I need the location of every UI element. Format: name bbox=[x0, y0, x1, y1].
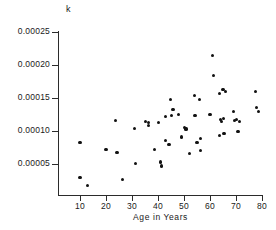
data-point bbox=[232, 110, 235, 113]
data-point bbox=[218, 134, 221, 137]
data-point bbox=[193, 94, 196, 97]
data-point bbox=[86, 184, 89, 187]
y-axis-tick-label: 0.00010 bbox=[18, 125, 50, 135]
data-point bbox=[199, 137, 202, 140]
y-axis-title: k bbox=[66, 4, 71, 14]
x-axis-tick-label: 60 bbox=[198, 201, 222, 211]
data-point bbox=[180, 135, 183, 138]
y-axis-tick-label: 0.00005 bbox=[18, 158, 50, 168]
data-point bbox=[159, 160, 162, 163]
data-point bbox=[222, 132, 225, 135]
data-point bbox=[164, 139, 167, 142]
x-axis-tick-label: 80 bbox=[250, 201, 274, 211]
data-point bbox=[208, 113, 211, 116]
data-point bbox=[211, 54, 214, 57]
x-axis-tick-label: 20 bbox=[94, 201, 118, 211]
data-point bbox=[236, 130, 239, 133]
data-point bbox=[171, 108, 174, 111]
data-point bbox=[184, 127, 187, 130]
y-axis-tick-label: 0.00020 bbox=[18, 59, 50, 69]
x-axis-tick-label: 10 bbox=[68, 201, 92, 211]
x-axis-title: Age in Years bbox=[58, 212, 263, 222]
data-point bbox=[169, 98, 172, 101]
x-axis-tick-label: 30 bbox=[120, 201, 144, 211]
data-point bbox=[188, 152, 191, 155]
x-axis-line bbox=[58, 195, 263, 196]
data-point bbox=[160, 164, 163, 167]
plot-area bbox=[58, 32, 262, 195]
x-axis-tick-label: 70 bbox=[224, 201, 248, 211]
y-axis-tick-label: 0.00025 bbox=[18, 26, 50, 36]
data-point bbox=[238, 120, 241, 123]
data-point bbox=[115, 151, 118, 154]
data-point bbox=[212, 74, 215, 77]
data-point bbox=[104, 148, 107, 151]
x-axis-tick-label: 50 bbox=[172, 201, 196, 211]
data-point bbox=[134, 162, 137, 165]
data-point bbox=[177, 113, 180, 116]
scatter-plot-figure: k 0.000050.000100.000150.000200.00025 10… bbox=[0, 0, 276, 230]
y-axis-tick-label: 0.00015 bbox=[18, 92, 50, 102]
x-axis-tick-label: 40 bbox=[146, 201, 170, 211]
data-point bbox=[254, 90, 257, 93]
